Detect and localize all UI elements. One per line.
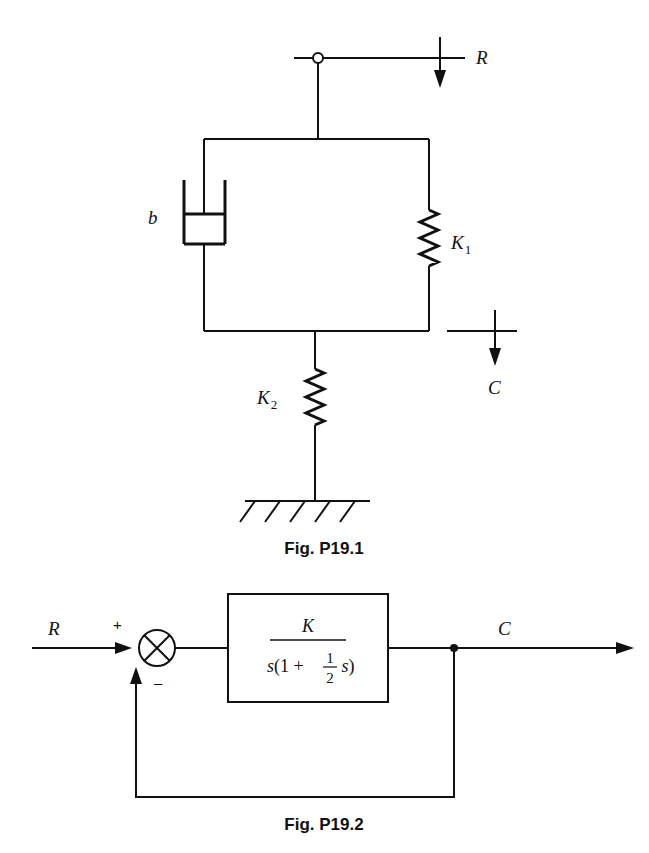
plus-sign: + (113, 616, 122, 633)
tf-half-num: 1 (326, 650, 334, 666)
tf-numerator: K (301, 616, 315, 636)
tf-denominator-tail: s) (337, 656, 355, 677)
input-label-r: R (475, 47, 488, 68)
input-arrow-head (434, 70, 446, 88)
mechanical-system (184, 37, 517, 522)
transfer-function-block (228, 594, 388, 702)
figure-caption-2: Fig. P19.2 (284, 815, 363, 834)
block-input-label-r: R (47, 618, 60, 639)
diagram-canvas: R b K1 C K2 Fig. P19.1 R + – K s(1 + 1 2… (0, 0, 649, 853)
spring-k1 (420, 210, 438, 266)
block-diagram (32, 594, 634, 797)
summing-junction (139, 630, 175, 666)
output-arrow-head (489, 348, 501, 366)
feedback-arrow-head (130, 667, 142, 684)
pivot-node (313, 53, 323, 63)
output-label-c: C (488, 377, 501, 398)
ground-icon (240, 501, 370, 522)
figure-caption-1: Fig. P19.1 (284, 539, 363, 558)
minus-sign: – (154, 674, 163, 691)
spring1-label: K1 (450, 232, 471, 257)
spring2-label: K2 (256, 387, 277, 412)
output-arrow-head (616, 642, 634, 654)
damper-label-b: b (148, 207, 158, 228)
block-output-label-c: C (498, 618, 511, 639)
input-arrow-head (115, 642, 132, 654)
spring-k2 (306, 369, 324, 425)
tf-denominator: s(1 + (267, 656, 308, 677)
tf-half-den: 2 (326, 670, 334, 686)
